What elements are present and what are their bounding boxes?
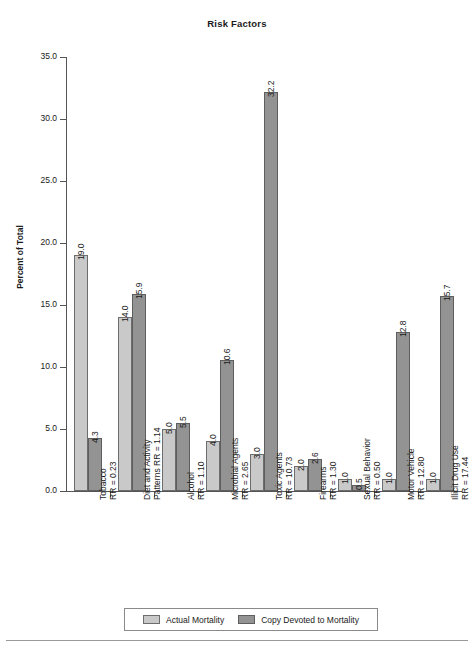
- y-tick-label: 35.0: [17, 52, 57, 61]
- category-label-rr: Patterns RR = 1.14: [152, 427, 162, 500]
- bar-value-label: 1.0: [385, 472, 394, 484]
- legend-label: Copy Devoted to Mortality: [261, 615, 359, 625]
- y-tick-label: 0.0: [17, 486, 57, 495]
- category-label: TobaccoRR = 0.23: [98, 461, 118, 500]
- category-label-rr: RR = 12.80: [416, 449, 426, 501]
- bar-value-label: 1.0: [341, 472, 350, 484]
- category-label-rr: RR = 0.50: [372, 438, 382, 500]
- bar-value-label: 15.9: [135, 282, 144, 299]
- category-label: Sexual BehaviorRR = 0.50: [362, 438, 382, 500]
- y-tick-label: 10.0: [17, 362, 57, 371]
- category-label: FirearmsRR = 1.30: [318, 461, 338, 500]
- category-label-rr: RR = 1.10: [196, 461, 206, 500]
- y-tick-label: 5.0: [17, 424, 57, 433]
- category-label: Diet and ActivityPatterns RR = 1.14: [142, 427, 162, 500]
- category-label-rr: RR = 10.73: [284, 452, 294, 500]
- bar: [118, 317, 132, 491]
- bar: [162, 429, 176, 491]
- bar-value-label: 14.0: [121, 306, 130, 323]
- category-label-name: Motor Vehicle: [406, 449, 416, 501]
- category-label-name: Toxic Agents: [274, 452, 284, 500]
- category-label-rr: RR = 2.65: [240, 438, 250, 500]
- bar: [264, 92, 278, 491]
- chart-title: Risk Factors: [0, 18, 474, 29]
- y-tick-label: 25.0: [17, 176, 57, 185]
- bar: [74, 255, 88, 491]
- bar-value-label: 1.0: [429, 472, 438, 484]
- y-tick-label: 20.0: [17, 238, 57, 247]
- category-label-name: Illicit Drug Use: [450, 445, 460, 500]
- category-label-name: Diet and Activity: [142, 440, 152, 500]
- bar-value-label: 10.6: [223, 348, 232, 365]
- plot-area: 19.04.314.015.95.05.54.010.63.032.22.02.…: [66, 57, 462, 491]
- category-label-name: Alcohol: [186, 472, 196, 500]
- category-label-rr: RR = 0.23: [108, 461, 118, 500]
- bar-value-label: 2.0: [297, 459, 306, 471]
- category-label-rr: RR = 1.30: [328, 461, 338, 500]
- bar-value-label: 4.0: [209, 435, 218, 447]
- bar-value-label: 3.0: [253, 447, 262, 459]
- bar-value-label: 12.8: [399, 321, 408, 338]
- bar-value-label: 32.2: [267, 80, 276, 97]
- category-label: Toxic AgentsRR = 10.73: [274, 452, 294, 500]
- bar-value-label: 19.0: [77, 244, 86, 261]
- x-axis-line: [66, 491, 462, 492]
- category-label: Microbial AgentsRR = 2.65: [230, 438, 250, 500]
- legend-swatch: [143, 615, 160, 624]
- legend-label: Actual Mortality: [166, 615, 224, 625]
- y-tick-mark: [60, 491, 66, 492]
- y-tick-label: 30.0: [17, 114, 57, 123]
- bar: [250, 454, 264, 491]
- category-label-name: Sexual Behavior: [362, 438, 372, 500]
- y-axis-title: Percent of Total: [15, 207, 25, 307]
- bar: [206, 441, 220, 491]
- bar-value-label: 4.3: [91, 431, 100, 443]
- legend-entry: Actual Mortality: [143, 615, 224, 625]
- category-label-name: Firearms: [318, 466, 328, 500]
- category-label-rr: RR = 17.44: [460, 445, 470, 500]
- category-label-name: Microbial Agents: [230, 438, 240, 500]
- chart-legend: Actual MortalityCopy Devoted to Mortalit…: [124, 608, 378, 631]
- legend-swatch: [238, 615, 255, 624]
- legend-entry: Copy Devoted to Mortality: [238, 615, 359, 625]
- footer-divider: [6, 640, 468, 641]
- category-label: AlcoholRR = 1.10: [186, 461, 206, 500]
- category-label: Motor VehicleRR = 12.80: [406, 449, 426, 501]
- category-label: Illicit Drug UseRR = 17.44: [450, 445, 470, 500]
- bar-value-label: 5.0: [165, 422, 174, 434]
- risk-factors-bar-chart: Risk Factors Percent of Total 0.05.010.0…: [0, 0, 474, 651]
- bar-value-label: 15.7: [443, 285, 452, 302]
- bar-value-label: 5.5: [179, 416, 188, 428]
- category-label-name: Tobacco: [98, 468, 108, 500]
- y-tick-label: 15.0: [17, 300, 57, 309]
